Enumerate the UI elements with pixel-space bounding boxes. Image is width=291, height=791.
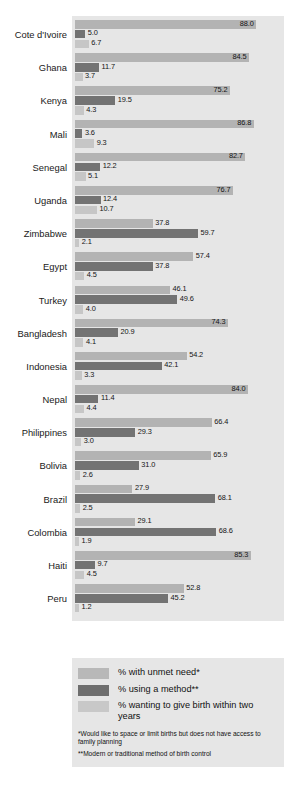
bar-line: 5.0	[72, 30, 284, 39]
category-label: Cote d'Ivoire	[0, 29, 67, 40]
bar-line: 84.0	[72, 385, 284, 394]
bar-value-label: 37.8	[153, 261, 169, 271]
bar-line: 59.7	[72, 229, 284, 238]
bar-value-label: 65.9	[211, 450, 227, 460]
bar-value-label: 4.3	[84, 105, 96, 115]
bar-value-label: 86.8	[237, 118, 253, 128]
bar-segment	[75, 120, 254, 129]
bar-value-label: 29.1	[135, 516, 151, 526]
bar-segment	[75, 196, 101, 205]
bar-value-label: 4.0	[83, 304, 95, 314]
category-label: Bolivia	[0, 460, 67, 471]
bar-line: 45.2	[72, 594, 284, 603]
legend-swatch-unmet-need	[78, 668, 109, 679]
bar-segment	[75, 371, 82, 380]
bar-line: 85.3	[72, 551, 284, 560]
bar-value-label: 27.9	[132, 483, 148, 493]
bar-group: 46.149.64.0	[72, 286, 284, 319]
bar-line: 84.5	[72, 53, 284, 62]
bar-segment	[75, 594, 168, 603]
legend-item: % wanting to give birth within two years	[78, 700, 276, 723]
bar-line: 37.8	[72, 262, 284, 271]
category-label: Indonesia	[0, 361, 67, 372]
category-label: Turkey	[0, 295, 67, 306]
bar-line: 29.3	[72, 428, 284, 437]
bar-value-label: 84.5	[233, 52, 249, 62]
bar-segment	[75, 86, 230, 95]
bar-line: 68.1	[72, 494, 284, 503]
category-label: Mali	[0, 129, 67, 140]
bar-line: 12.4	[72, 196, 284, 205]
bar-value-label: 42.1	[162, 360, 178, 370]
bar-segment	[75, 561, 95, 570]
category-label: Egypt	[0, 261, 67, 272]
legend-item: % with unmet need*	[78, 667, 276, 679]
bar-value-label: 3.0	[81, 436, 93, 446]
legend-label: % with unmet need*	[118, 667, 200, 678]
bar-segment	[75, 418, 212, 427]
bar-line: 4.0	[72, 305, 284, 314]
bar-value-label: 29.3	[135, 427, 151, 437]
bar-segment	[75, 40, 89, 49]
bar-line: 10.7	[72, 206, 284, 215]
bar-segment	[75, 494, 215, 503]
legend-label: % using a method**	[118, 684, 199, 695]
bar-line: 2.1	[72, 239, 284, 248]
bar-value-label: 2.1	[79, 237, 91, 247]
category-label: Uganda	[0, 195, 67, 206]
bar-line: 52.8	[72, 584, 284, 593]
bar-segment	[75, 518, 135, 527]
bar-line: 29.1	[72, 518, 284, 527]
bar-segment	[75, 53, 249, 62]
bar-line: 75.2	[72, 86, 284, 95]
bar-value-label: 1.2	[79, 602, 91, 612]
bar-value-label: 2.6	[80, 470, 92, 480]
category-label: Brazil	[0, 494, 67, 505]
bar-segment	[75, 584, 184, 593]
category-label: Philippines	[0, 427, 67, 438]
bar-group: 76.712.410.7	[72, 186, 284, 219]
bar-segment	[75, 272, 84, 281]
bar-segment	[75, 395, 98, 404]
bar-segment	[75, 485, 132, 494]
bar-value-label: 4.1	[83, 337, 95, 347]
bar-segment	[75, 30, 85, 39]
plot-area: 88.05.06.784.511.73.775.219.54.386.83.69…	[72, 16, 284, 621]
bar-line: 27.9	[72, 485, 284, 494]
bar-line: 2.6	[72, 471, 284, 480]
bar-segment	[75, 405, 84, 414]
legend-swatch-using-method	[78, 685, 109, 696]
bar-group: 74.320.94.1	[72, 319, 284, 352]
bar-value-label: 4.5	[84, 569, 96, 579]
category-label: Kenya	[0, 95, 67, 106]
bar-value-label: 12.2	[100, 161, 116, 171]
category-label: Senegal	[0, 162, 67, 173]
category-label: Peru	[0, 593, 67, 604]
bar-value-label: 20.9	[118, 327, 134, 337]
bar-line: 9.7	[72, 561, 284, 570]
bar-line: 3.7	[72, 73, 284, 82]
bar-value-label: 49.6	[177, 294, 193, 304]
bar-segment	[75, 571, 84, 580]
bar-line: 88.0	[72, 20, 284, 29]
bar-line: 65.9	[72, 451, 284, 460]
bar-segment	[75, 139, 94, 148]
bar-line: 4.5	[72, 272, 284, 281]
bar-group: 82.712.25.1	[72, 153, 284, 186]
bar-segment	[75, 129, 82, 138]
bar-segment	[75, 163, 100, 172]
bar-group: 66.429.33.0	[72, 418, 284, 451]
bar-value-label: 5.1	[86, 171, 98, 181]
legend-label: % wanting to give birth within two years	[118, 700, 276, 723]
category-label: Colombia	[0, 527, 67, 538]
bar-value-label: 5.0	[85, 28, 97, 38]
bar-value-label: 6.7	[89, 38, 101, 48]
bar-group: 29.168.61.9	[72, 518, 284, 551]
bar-group: 85.39.74.5	[72, 551, 284, 584]
bar-value-label: 88.0	[240, 19, 256, 29]
bar-segment	[75, 153, 245, 162]
bar-group: 27.968.12.5	[72, 485, 284, 518]
bar-segment	[75, 262, 153, 271]
legend-footnotes: *Would like to space or limit births but…	[78, 730, 276, 759]
bar-group: 75.219.54.3	[72, 86, 284, 119]
